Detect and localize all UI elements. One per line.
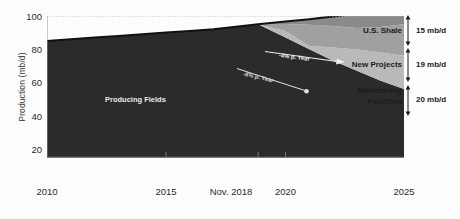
bracket-cap-top-maintaining <box>406 85 411 90</box>
bracket-cap-top-new-projects <box>406 48 411 53</box>
x-tick-2020: 2020 <box>275 186 296 197</box>
x-tick-2015: 2015 <box>155 186 176 197</box>
x-tick-nov-2018: Nov. 2018 <box>210 186 253 197</box>
y-tick-40: 40 <box>16 111 42 122</box>
bracket-cap-bottom-new-projects <box>406 78 411 83</box>
legend-value-new-projects: 19 mb/d <box>416 60 446 69</box>
y-tick-80: 80 <box>16 44 42 55</box>
right-legend: U.S. Shale 15 mb/d New Projects 19 mb/d … <box>340 0 460 219</box>
series-label-producing-fields: Producing Fields <box>105 95 166 104</box>
legend-value-maintaining: 20 mb/d <box>416 95 446 104</box>
bracket-cap-bottom-us-shale <box>406 42 411 47</box>
legend-label-maintaining-line2: Facilities <box>368 97 402 107</box>
y-tick-100: 100 <box>16 11 42 22</box>
bracket-cap-top-us-shale <box>406 15 411 20</box>
x-tick-2010: 2010 <box>36 186 57 197</box>
annotation-arrowhead-decline <box>304 89 309 94</box>
legend-label-maintaining-line1: Maintaining <box>358 86 402 96</box>
y-tick-60: 60 <box>16 77 42 88</box>
bracket-cap-bottom-maintaining <box>406 112 411 117</box>
y-tick-20: 20 <box>16 144 42 155</box>
legend-brackets <box>400 0 416 219</box>
legend-label-us-shale: U.S. Shale <box>363 26 402 36</box>
legend-value-us-shale: 15 mb/d <box>416 26 446 35</box>
chart-root: Production (mb/d) 100 80 60 40 20 <box>0 0 460 219</box>
legend-label-new-projects: New Projects <box>352 60 402 70</box>
